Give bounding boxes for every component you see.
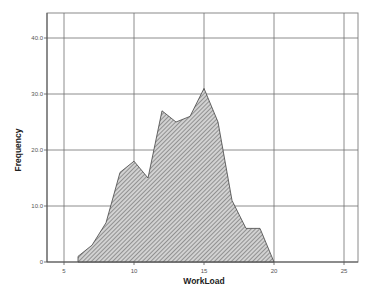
y-axis-title: Frequency — [13, 128, 23, 171]
y-tick-label: 20.0 — [31, 147, 43, 153]
x-axis-title: WorkLoad — [183, 276, 224, 286]
y-axis-ticks: 010.020.030.040.0 — [31, 35, 47, 265]
x-tick-label: 20 — [271, 268, 278, 274]
x-tick-label: 15 — [201, 268, 208, 274]
y-tick-label: 10.0 — [31, 203, 43, 209]
x-tick-label: 25 — [341, 268, 348, 274]
area-chart: 010.020.030.040.0 510152025 WorkLoad Fre… — [0, 0, 376, 302]
x-tick-label: 10 — [131, 268, 138, 274]
y-tick-label: 0 — [40, 259, 44, 265]
y-tick-label: 40.0 — [31, 35, 43, 41]
x-tick-label: 5 — [62, 268, 66, 274]
x-axis-ticks: 510152025 — [62, 262, 348, 274]
y-tick-label: 30.0 — [31, 91, 43, 97]
